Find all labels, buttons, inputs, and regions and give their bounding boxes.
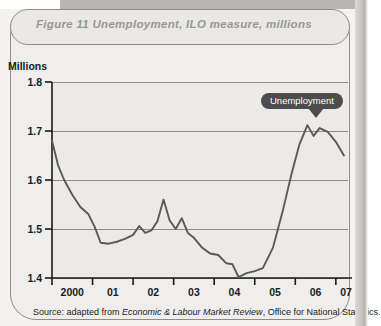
annotation-callout-unemployment: Unemployment <box>261 93 343 109</box>
x-axis-tick-labels: 200001020304050607 <box>61 286 352 298</box>
svg-text:04: 04 <box>229 286 241 298</box>
svg-text:02: 02 <box>148 286 160 298</box>
x-axis-ticks <box>52 278 336 285</box>
svg-text:2000: 2000 <box>61 286 85 298</box>
y-axis-ticks <box>45 82 52 278</box>
source-prefix: Source: adapted from <box>33 307 122 317</box>
source-publication: Economic & Labour Market Review <box>122 307 263 317</box>
svg-text:1.6: 1.6 <box>27 174 42 186</box>
annotation-callout-pointer <box>308 108 324 118</box>
svg-text:07: 07 <box>340 286 352 298</box>
svg-text:1.7: 1.7 <box>27 125 42 137</box>
svg-text:1.8: 1.8 <box>27 76 42 88</box>
y-axis-tick-labels: 1.81.71.61.51.4 <box>27 76 42 284</box>
svg-text:1.5: 1.5 <box>27 223 42 235</box>
svg-text:01: 01 <box>107 286 119 298</box>
svg-text:06: 06 <box>310 286 322 298</box>
svg-text:03: 03 <box>188 286 200 298</box>
source-note: Source: adapted from Economic & Labour M… <box>33 307 381 317</box>
page-edge-shadow <box>355 0 368 326</box>
svg-text:05: 05 <box>269 286 281 298</box>
svg-text:1.4: 1.4 <box>27 272 42 284</box>
